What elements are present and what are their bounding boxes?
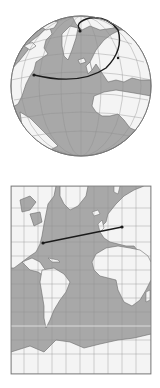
route-end-point — [78, 29, 81, 32]
route-start-point — [41, 241, 44, 244]
orthographic-globe — [0, 0, 160, 170]
mercator-projection — [0, 180, 160, 380]
route-end-point — [120, 225, 123, 228]
route-start-point — [32, 73, 35, 76]
mercator-map — [0, 180, 160, 380]
globe-map — [0, 0, 160, 170]
route-marker — [117, 57, 119, 59]
